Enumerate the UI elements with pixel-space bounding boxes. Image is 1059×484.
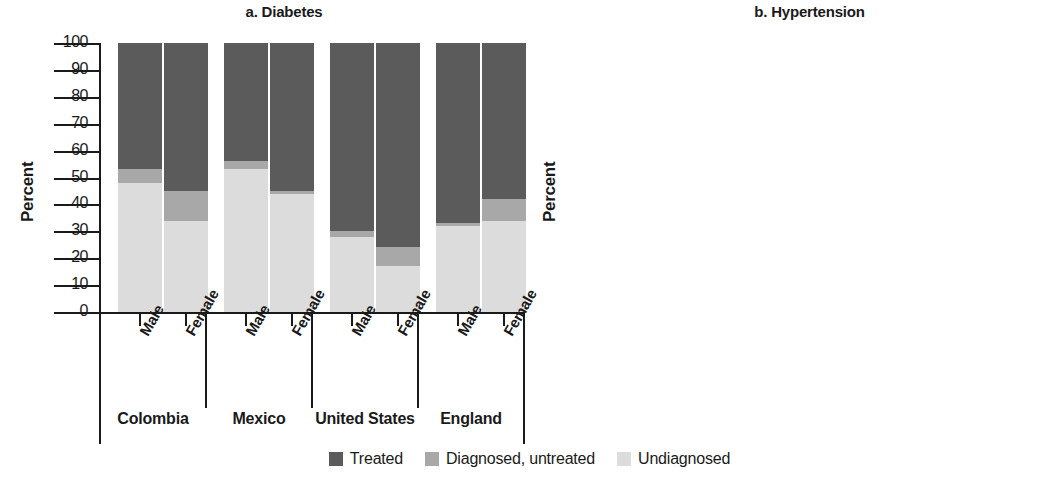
- y-tick-100: 100: [54, 43, 100, 45]
- panel-diabetes: a. Diabetes Percent 01020304050607080901…: [0, 0, 530, 440]
- y-tick-30: 30: [54, 231, 100, 233]
- segment-treated: [118, 43, 162, 169]
- y-tick-60: 60: [54, 151, 100, 153]
- bar-colombia-female: [164, 43, 208, 312]
- segment-diagnosed-untreated: [436, 223, 480, 226]
- segment-treated: [270, 43, 314, 191]
- bar-mexico-male: [224, 43, 268, 312]
- panel-hypertension: b. Hypertension Percent 0102030405060708…: [530, 0, 1059, 440]
- segment-treated: [376, 43, 420, 247]
- segment-diagnosed-untreated: [118, 169, 162, 182]
- segment-diagnosed-untreated: [224, 161, 268, 169]
- panel-b-title: b. Hypertension: [530, 3, 1059, 20]
- y-tick-label: 30: [71, 222, 88, 238]
- segment-treated: [330, 43, 374, 231]
- y-tick-label: 90: [71, 61, 88, 77]
- segment-treated: [164, 43, 208, 191]
- y-tick-label: 100: [63, 34, 88, 50]
- segment-diagnosed-untreated: [376, 247, 420, 266]
- legend-label: Diagnosed, untreated: [446, 450, 595, 468]
- y-tick-label: 10: [71, 276, 88, 292]
- country-label-mexico: Mexico: [206, 410, 312, 428]
- y-tick-label: 80: [71, 88, 88, 104]
- bar-england-female: [482, 43, 526, 312]
- bar-united-states-female: [376, 43, 420, 312]
- country-label-england: England: [418, 410, 524, 428]
- segment-diagnosed-untreated: [270, 191, 314, 194]
- segment-undiagnosed: [270, 194, 314, 312]
- segment-treated: [436, 43, 480, 223]
- panel-a-bars: [100, 43, 524, 312]
- segment-undiagnosed: [224, 169, 268, 312]
- segment-undiagnosed: [436, 226, 480, 312]
- legend-swatch-icon: [329, 452, 343, 466]
- y-tick-70: 70: [54, 124, 100, 126]
- x-axis-group-separator: [311, 312, 313, 408]
- x-axis-group-separator: [205, 312, 207, 408]
- y-tick-label: 70: [71, 115, 88, 131]
- x-axis-group-separator: [417, 312, 419, 408]
- segment-treated: [482, 43, 526, 199]
- panel-a-y-axis-label: Percent: [18, 162, 38, 222]
- y-tick-label: 40: [71, 195, 88, 211]
- country-label-colombia: Colombia: [100, 410, 206, 428]
- segment-undiagnosed: [330, 237, 374, 312]
- legend-swatch-icon: [425, 452, 439, 466]
- segment-diagnosed-untreated: [482, 199, 526, 221]
- panel-b-y-axis-label: Percent: [540, 162, 560, 222]
- y-tick-10: 10: [54, 285, 100, 287]
- y-tick-label: 60: [71, 142, 88, 158]
- segment-undiagnosed: [118, 183, 162, 312]
- legend-item-undiagnosed: Undiagnosed: [617, 450, 730, 468]
- bar-england-male: [436, 43, 480, 312]
- chart-legend: TreatedDiagnosed, untreatedUndiagnosed: [0, 450, 1059, 468]
- y-tick-40: 40: [54, 204, 100, 206]
- y-tick-label: 20: [71, 249, 88, 265]
- y-tick-50: 50: [54, 178, 100, 180]
- y-tick-label: 0: [80, 303, 88, 319]
- y-tick-20: 20: [54, 258, 100, 260]
- y-tick-0: 0: [54, 312, 100, 314]
- stacked-bar-figure: a. Diabetes Percent 01020304050607080901…: [0, 0, 1059, 484]
- y-tick-80: 80: [54, 97, 100, 99]
- legend-swatch-icon: [617, 452, 631, 466]
- legend-item-diagnosed-untreated: Diagnosed, untreated: [425, 450, 595, 468]
- bar-mexico-female: [270, 43, 314, 312]
- segment-diagnosed-untreated: [330, 231, 374, 236]
- panel-a-plot-area: 0102030405060708090100: [100, 43, 524, 312]
- panel-a-title: a. Diabetes: [0, 3, 530, 20]
- y-tick-90: 90: [54, 70, 100, 72]
- legend-label: Undiagnosed: [638, 450, 730, 468]
- bar-united-states-male: [330, 43, 374, 312]
- y-tick-label: 50: [71, 169, 88, 185]
- legend-item-treated: Treated: [329, 450, 403, 468]
- segment-diagnosed-untreated: [164, 191, 208, 221]
- segment-treated: [224, 43, 268, 161]
- country-label-united-states: United States: [312, 410, 418, 428]
- legend-label: Treated: [350, 450, 403, 468]
- bar-colombia-male: [118, 43, 162, 312]
